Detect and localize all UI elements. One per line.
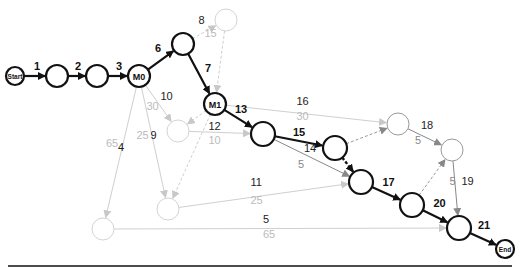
nodes-layer: StartM0M1End — [6, 9, 514, 258]
edge-label: 3 — [116, 60, 122, 72]
edge-sublabel: 25 — [137, 129, 149, 141]
node-n1 — [46, 65, 68, 87]
edge-label: 17 — [383, 176, 395, 188]
edge-n9-n17 — [179, 184, 348, 208]
edge-sublabel: 5 — [298, 158, 304, 170]
edge-n15-n16 — [346, 128, 387, 143]
node-circle — [441, 139, 463, 161]
node-n8 — [215, 9, 237, 31]
edge-n20-n18 — [419, 160, 445, 196]
edge-sublabel: 65 — [106, 137, 118, 149]
edge-m1-n10 — [188, 110, 206, 123]
edge-label: 7 — [205, 62, 211, 74]
edge-sublabel: 25 — [251, 194, 263, 206]
edge-sublabel: 15 — [205, 27, 217, 39]
edge-label: 18 — [421, 119, 433, 131]
node-n17 — [349, 170, 373, 194]
edge-label: 20 — [434, 197, 446, 209]
edge-label: 14 — [304, 142, 316, 154]
edge-n4-n21 — [114, 228, 446, 229]
node-n21 — [447, 216, 471, 240]
node-m0: M0 — [128, 65, 150, 87]
node-circle — [349, 170, 373, 194]
edge-label: 9 — [151, 129, 157, 141]
edge-label: 8 — [199, 14, 205, 26]
edge-n17-n20 — [372, 187, 400, 200]
node-n2 — [86, 65, 108, 87]
edge-label: 11 — [251, 176, 262, 188]
edge-n21-end — [470, 233, 496, 245]
node-start: Start — [6, 67, 24, 85]
node-n16 — [387, 113, 409, 135]
edge-label: 6 — [155, 42, 161, 54]
node-circle — [400, 193, 424, 217]
edge-label: 2 — [75, 60, 81, 72]
edge-n15-n17 — [342, 158, 353, 172]
node-circle — [157, 198, 179, 220]
edge-sublabel: 30 — [147, 100, 159, 112]
edge-sublabel: 65 — [263, 228, 275, 240]
edge-label: 5 — [263, 213, 269, 225]
edge-n8-m1 — [217, 31, 225, 92]
edge-label: 16 — [297, 95, 309, 107]
edge-n18-n21 — [453, 161, 458, 215]
edge-label: 1 — [34, 60, 40, 72]
edge-label: 15 — [293, 126, 305, 138]
edge-sublabel: 5 — [415, 134, 421, 146]
node-circle — [387, 113, 409, 135]
node-end: End — [496, 240, 514, 258]
node-circle — [251, 122, 275, 146]
node-circle — [46, 65, 68, 87]
node-n6 — [172, 33, 194, 55]
node-circle — [323, 136, 347, 160]
node-m1: M1 — [204, 93, 226, 115]
edge-sublabel: 5 — [450, 175, 456, 187]
node-label: M0 — [133, 72, 146, 82]
node-circle — [172, 33, 194, 55]
node-n9 — [157, 198, 179, 220]
edge-label: 21 — [478, 219, 490, 231]
edge-label: 4 — [118, 141, 124, 153]
edge-label: 13 — [235, 103, 247, 115]
node-n15 — [323, 136, 347, 160]
edge-label: 19 — [462, 175, 474, 187]
node-label: End — [499, 246, 511, 253]
node-label: M1 — [209, 100, 222, 110]
network-diagram: 1236815710309254651316301210151451851125… — [0, 0, 521, 270]
node-n4 — [92, 218, 114, 240]
node-circle — [86, 65, 108, 87]
node-n20 — [400, 193, 424, 217]
node-circle — [447, 216, 471, 240]
node-n13 — [251, 122, 275, 146]
node-n10 — [167, 120, 189, 142]
node-label: Start — [8, 73, 24, 80]
node-circle — [167, 120, 189, 142]
node-circle — [215, 9, 237, 31]
edge-label: 12 — [209, 120, 221, 132]
node-n18 — [441, 139, 463, 161]
edge-sublabel: 30 — [297, 110, 309, 122]
node-circle — [92, 218, 114, 240]
edge-n20-n21 — [423, 210, 448, 222]
edge-n16-n18 — [408, 129, 441, 145]
edge-sublabel: 10 — [209, 134, 221, 146]
edge-label: 10 — [161, 90, 173, 102]
